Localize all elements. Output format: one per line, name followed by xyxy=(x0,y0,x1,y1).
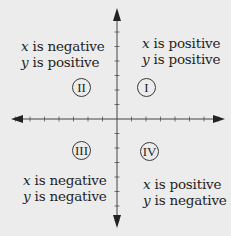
quadrant-3-numeral: III xyxy=(72,141,91,160)
quadrant-2-x-condition: x is negative xyxy=(21,38,105,54)
quadrant-2-y-condition: y is positive xyxy=(21,54,105,70)
quadrant-4-numeral: IV xyxy=(140,142,159,161)
quadrant-4-x-condition: x is positive xyxy=(143,176,227,192)
quadrant-4-y-condition: y is negative xyxy=(143,192,227,208)
x-axis-left-arrow-icon xyxy=(11,115,23,123)
quadrant-1-label: x is positive y is positive xyxy=(142,35,220,67)
x-condition-text: is negative xyxy=(28,38,104,54)
x-axis-right-arrow-icon xyxy=(213,115,225,123)
quadrant-3-y-condition: y is negative xyxy=(23,188,107,204)
x-condition-text: is negative xyxy=(30,172,106,188)
quadrant-3-label: x is negative y is negative xyxy=(23,172,107,204)
x-condition-text: is positive xyxy=(150,176,221,192)
quadrant-1-x-condition: x is positive xyxy=(142,35,220,51)
quadrant-1-y-condition: y is positive xyxy=(142,51,220,67)
y-condition-text: is negative xyxy=(30,188,106,204)
quadrant-1-numeral: I xyxy=(137,78,156,97)
quadrant-2-numeral: II xyxy=(72,78,91,97)
y-axis-up-arrow-icon xyxy=(113,8,121,21)
quadrant-3-x-condition: x is negative xyxy=(23,172,107,188)
quadrant-4-label: x is positive y is negative xyxy=(143,176,227,208)
y-condition-text: is positive xyxy=(28,54,99,70)
y-condition-text: is negative xyxy=(150,192,226,208)
y-axis-down-arrow-icon xyxy=(113,215,121,228)
quadrant-2-label: x is negative y is positive xyxy=(21,38,105,70)
x-condition-text: is positive xyxy=(149,35,220,51)
y-condition-text: is positive xyxy=(149,51,220,67)
